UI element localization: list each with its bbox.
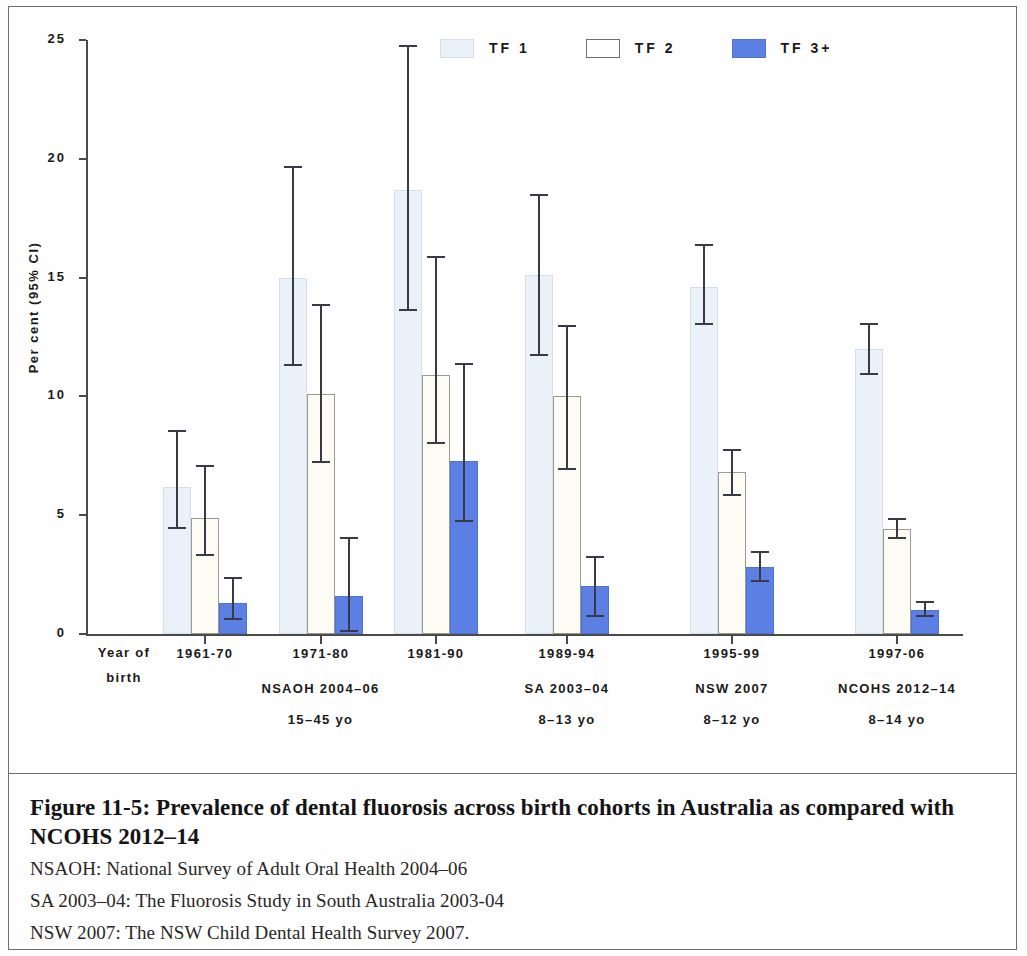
ci-cap-lower-tf3-1981-90	[455, 520, 473, 522]
y-tick-0	[79, 633, 86, 635]
ci-line-tf3-1981-90	[463, 363, 465, 522]
ci-line-tf1-1971-80	[292, 166, 294, 366]
legend-item-tf2: TF 2	[586, 39, 676, 58]
ci-line-tf3-1989-94	[594, 556, 596, 618]
ci-cap-lower-tf3-1995-99	[751, 580, 769, 582]
ci-cap-lower-tf1-1995-99	[695, 323, 713, 325]
ci-cap-lower-tf2-1995-99	[723, 494, 741, 496]
group-label-1997-06: 1997-06	[817, 646, 977, 661]
bar-tf2-1995-99	[718, 472, 746, 634]
bar-tf1-1997-06	[855, 349, 883, 634]
legend-item-tf3: TF 3+	[732, 39, 833, 58]
y-axis-line	[86, 40, 88, 635]
x-axis-line	[86, 634, 963, 636]
ci-cap-lower-tf3-1961-70	[224, 618, 242, 620]
y-tick-label-25: 25	[20, 31, 66, 46]
y-axis-title: Per cent (95% CI)	[26, 213, 41, 403]
ci-line-tf2-1961-70	[204, 465, 206, 555]
ci-cap-lower-tf1-1971-80	[284, 364, 302, 366]
ci-cap-upper-tf2-1997-06	[888, 518, 906, 520]
bar-tf2-1997-06	[883, 529, 911, 634]
ci-line-tf1-1997-06	[868, 323, 870, 375]
ci-cap-lower-tf3-1989-94	[586, 615, 604, 617]
ci-line-tf2-1989-94	[566, 325, 568, 470]
ci-cap-upper-tf3-1971-80	[340, 537, 358, 539]
legend-swatch-tf1	[440, 39, 474, 58]
ci-cap-lower-tf1-1961-70	[168, 527, 186, 529]
survey-label-nsaoh: NSAOH 2004–06	[201, 681, 441, 696]
y-tick-5	[79, 514, 86, 516]
legend-label-tf3: TF 3+	[781, 40, 833, 56]
ci-cap-upper-tf3-1961-70	[224, 577, 242, 579]
figure-caption: Figure 11-5: Prevalence of dental fluoro…	[30, 793, 985, 948]
ci-cap-lower-tf2-1971-80	[312, 461, 330, 463]
ci-line-tf1-1981-90	[407, 45, 409, 311]
group-label-1995-99: 1995-99	[652, 646, 812, 661]
x-tick-1995-99	[731, 636, 733, 644]
ci-cap-lower-tf1-1989-94	[530, 354, 548, 356]
x-axis-caption-line1: Year of	[78, 645, 170, 660]
x-tick-1961-70	[204, 636, 206, 644]
y-tick-label-20: 20	[20, 150, 66, 165]
ci-line-tf1-1995-99	[703, 244, 705, 325]
ci-line-tf2-1981-90	[435, 256, 437, 444]
x-tick-1989-94	[566, 636, 568, 644]
y-tick-25	[79, 39, 86, 41]
ci-cap-upper-tf1-1995-99	[695, 244, 713, 246]
ci-cap-lower-tf2-1981-90	[427, 442, 445, 444]
ci-cap-upper-tf1-1997-06	[860, 323, 878, 325]
ci-line-tf1-1961-70	[176, 430, 178, 530]
ci-cap-upper-tf1-1961-70	[168, 430, 186, 432]
chart-legend: TF 1TF 2TF 3+	[440, 36, 889, 60]
caption-note-1: NSAOH: National Survey of Adult Oral Hea…	[30, 855, 985, 884]
ci-line-tf3-1971-80	[348, 537, 350, 632]
y-tick-label-0: 0	[20, 625, 66, 640]
ci-line-tf2-1971-80	[320, 304, 322, 463]
ci-cap-lower-tf3-1997-06	[916, 615, 934, 617]
caption-note-3: NSW 2007: The NSW Child Dental Health Su…	[30, 919, 985, 948]
ci-line-tf1-1989-94	[538, 194, 540, 356]
ci-cap-lower-tf1-1981-90	[399, 309, 417, 311]
y-tick-label-5: 5	[20, 506, 66, 521]
ci-cap-upper-tf1-1989-94	[530, 194, 548, 196]
caption-title: Figure 11-5: Prevalence of dental fluoro…	[30, 793, 985, 852]
ci-cap-lower-tf1-1997-06	[860, 373, 878, 375]
x-axis-caption-line2: birth	[78, 670, 170, 685]
group-label-1989-94: 1989-94	[487, 646, 647, 661]
ci-line-tf2-1995-99	[731, 449, 733, 497]
legend-item-tf1: TF 1	[440, 39, 530, 58]
ci-cap-upper-tf1-1981-90	[399, 45, 417, 47]
ci-line-tf3-1995-99	[759, 551, 761, 582]
survey-label-ncohs: NCOHS 2012–14	[777, 681, 1017, 696]
x-tick-1997-06	[896, 636, 898, 644]
ci-cap-upper-tf2-1961-70	[196, 465, 214, 467]
ci-cap-lower-tf3-1971-80	[340, 630, 358, 632]
bar-tf1-1995-99	[690, 287, 718, 634]
y-tick-20	[79, 158, 86, 160]
ci-cap-upper-tf1-1971-80	[284, 166, 302, 168]
y-tick-label-15: 15	[20, 269, 66, 284]
ci-cap-upper-tf2-1981-90	[427, 256, 445, 258]
ci-cap-upper-tf2-1995-99	[723, 449, 741, 451]
ci-cap-upper-tf2-1971-80	[312, 304, 330, 306]
legend-swatch-tf2	[586, 39, 620, 58]
ci-cap-lower-tf2-1997-06	[888, 537, 906, 539]
x-tick-1981-90	[435, 636, 437, 644]
x-tick-1971-80	[320, 636, 322, 644]
caption-divider	[9, 773, 1016, 774]
ci-cap-upper-tf3-1997-06	[916, 601, 934, 603]
ci-line-tf3-1961-70	[232, 577, 234, 620]
ci-cap-upper-tf3-1995-99	[751, 551, 769, 553]
y-tick-10	[79, 395, 86, 397]
y-tick-label-10: 10	[20, 387, 66, 402]
ci-cap-upper-tf3-1989-94	[586, 556, 604, 558]
legend-label-tf2: TF 2	[635, 40, 676, 56]
age-label-nsaoh: 15–45 yo	[201, 712, 441, 727]
fluorosis-bar-chart: TF 1TF 2TF 3+ Per cent (95% CI) 05101520…	[0, 0, 1027, 770]
legend-swatch-tf3	[732, 39, 766, 58]
y-tick-15	[79, 277, 86, 279]
ci-cap-upper-tf3-1981-90	[455, 363, 473, 365]
caption-note-2: SA 2003–04: The Fluorosis Study in South…	[30, 887, 985, 916]
legend-label-tf1: TF 1	[489, 40, 530, 56]
age-label-ncohs: 8–14 yo	[777, 712, 1017, 727]
